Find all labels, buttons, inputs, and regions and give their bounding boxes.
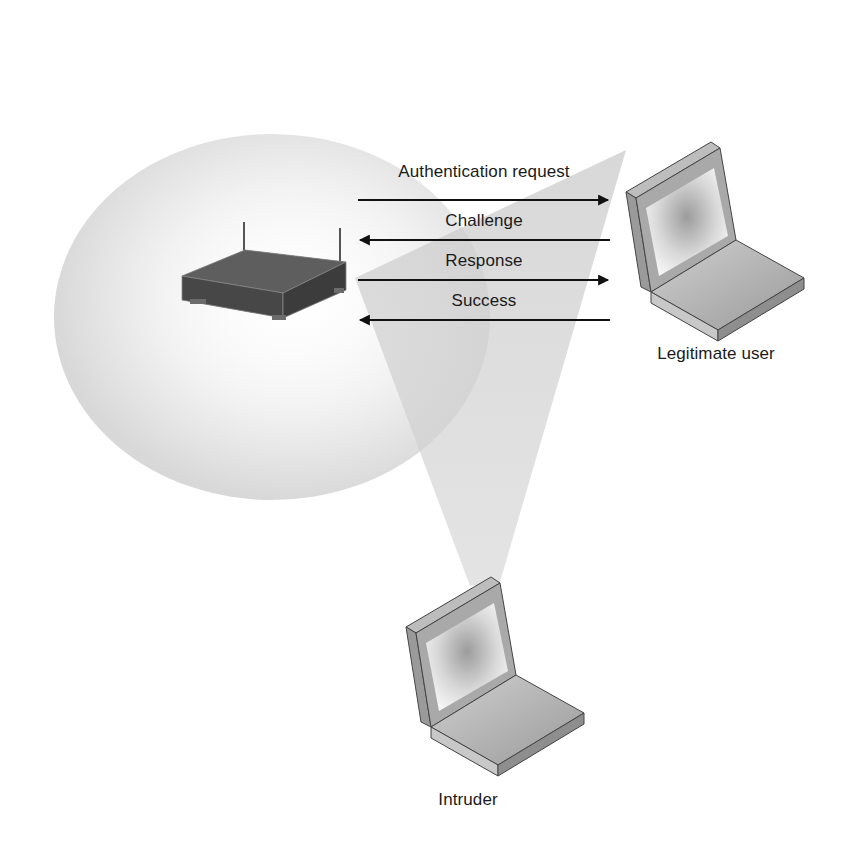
label-legitimate-user: Legitimate user xyxy=(657,344,775,364)
label-success: Success xyxy=(452,291,517,311)
label-intruder: Intruder xyxy=(438,790,497,810)
diagram-canvas xyxy=(0,0,859,861)
label-authentication-request: Authentication request xyxy=(398,162,569,182)
label-challenge: Challenge xyxy=(445,211,522,231)
legitimate-user-laptop-icon xyxy=(626,142,804,341)
label-response: Response xyxy=(445,251,522,271)
intruder-laptop-icon xyxy=(406,577,584,776)
